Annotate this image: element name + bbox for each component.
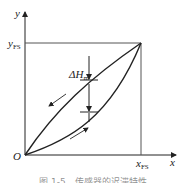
x-fs-label: xFS: [135, 157, 149, 171]
hysteresis-diagram: y x O yFS xFS ΔHm 图 1-5 传感器的迟滞特性: [0, 0, 186, 183]
upper-curve: [25, 43, 141, 155]
unloading-arrow-icon: [49, 94, 66, 106]
y-fs-label: yFS: [7, 37, 21, 51]
delta-h-label: ΔHm: [68, 68, 89, 82]
lower-curve: [25, 43, 141, 155]
origin-label: O: [13, 150, 21, 162]
axes: [25, 12, 176, 155]
figure-caption: 图 1-5 传感器的迟滞特性: [39, 176, 147, 183]
x-axis-label: x: [169, 156, 175, 168]
y-axis-label: y: [14, 7, 20, 19]
